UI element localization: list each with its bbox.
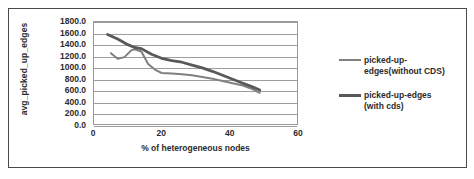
y-tick-label: 800.0: [39, 74, 86, 84]
y-tick-label: 1200.0: [39, 51, 86, 61]
x-tick-label: 20: [157, 128, 166, 138]
y-tick-label: 0.0: [39, 120, 86, 130]
y-axis-tick-labels: 1800.01600.01400.01200.01000.0800.0600.0…: [39, 21, 86, 125]
legend-label: picked-up-edges(with cds): [364, 90, 432, 112]
y-tick-label: 200.0: [39, 108, 86, 118]
plot-area: [93, 21, 298, 125]
y-axis-title: avg_picked_up_edges: [19, 4, 29, 134]
y-tick-label: 1400.0: [39, 39, 86, 49]
x-axis-title: % of heterogeneous nodes: [93, 143, 298, 153]
legend-color-swatch: [339, 94, 361, 97]
legend-entry: picked-up-edges(without CDS): [339, 55, 464, 77]
x-tick-label: 40: [225, 128, 234, 138]
chart-frame: avg_picked_up_edges 1800.01600.01400.012…: [8, 8, 467, 168]
series-line: [111, 49, 260, 93]
gridline: [94, 126, 297, 127]
legend-label: picked-up-edges(without CDS): [364, 55, 445, 77]
x-tick-label: 0: [91, 128, 96, 138]
y-tick-label: 400.0: [39, 97, 86, 107]
y-tick-label: 1600.0: [39, 28, 86, 38]
series-line: [108, 34, 260, 90]
chart-legend: picked-up-edges(without CDS)picked-up-ed…: [339, 55, 464, 125]
chart-screenshot: avg_picked_up_edges 1800.01600.01400.012…: [0, 0, 474, 179]
y-tick-label: 1000.0: [39, 62, 86, 72]
x-axis-tick-labels: 0204060: [93, 128, 298, 142]
series-lines: [94, 22, 297, 124]
legend-color-swatch: [339, 59, 361, 61]
x-tick-label: 60: [293, 128, 302, 138]
y-tick-label: 600.0: [39, 85, 86, 95]
y-tick-label: 1800.0: [39, 16, 86, 26]
legend-entry: picked-up-edges(with cds): [339, 90, 464, 112]
